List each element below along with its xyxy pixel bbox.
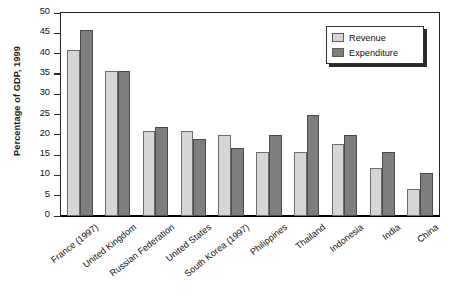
bar-group xyxy=(99,13,137,216)
y-axis-tick-label: 40 xyxy=(40,47,50,57)
legend-label-expenditure: Expenditure xyxy=(349,48,398,58)
y-axis-tick-label: 5 xyxy=(45,189,50,199)
bar-chart-figure: Percentage of GDP, 1999 0510152025303540… xyxy=(0,0,449,303)
y-axis-title: Percentage of GDP, 1999 xyxy=(12,16,22,186)
bar-revenue[interactable] xyxy=(181,131,194,216)
bar-expenditure[interactable] xyxy=(118,71,131,216)
bar-revenue[interactable] xyxy=(407,189,420,216)
legend-label-revenue: Revenue xyxy=(349,33,386,43)
y-axis-tick-mark xyxy=(54,33,61,34)
y-axis-tick-label: 35 xyxy=(40,67,50,77)
bar-group xyxy=(137,13,175,216)
bar-revenue[interactable] xyxy=(370,168,383,216)
bar-expenditure[interactable] xyxy=(231,148,244,216)
y-axis-tick-mark xyxy=(54,195,61,196)
bar-expenditure[interactable] xyxy=(155,127,168,216)
bar-expenditure[interactable] xyxy=(269,135,282,216)
bar-expenditure[interactable] xyxy=(307,115,320,216)
bar-expenditure[interactable] xyxy=(193,139,206,216)
bar-revenue[interactable] xyxy=(67,50,80,216)
y-axis-tick-mark xyxy=(54,155,61,156)
legend-swatch-revenue-icon xyxy=(332,33,344,43)
y-axis-tick-mark xyxy=(54,53,61,54)
bar-group xyxy=(212,13,250,216)
y-axis-tick-label: 20 xyxy=(40,128,50,138)
chart-legend: Revenue Expenditure xyxy=(326,26,424,64)
y-axis-tick-label: 15 xyxy=(40,148,50,158)
y-axis-tick-label: 50 xyxy=(40,6,50,16)
bar-revenue[interactable] xyxy=(105,71,118,216)
bar-expenditure[interactable] xyxy=(80,30,93,216)
bar-group xyxy=(174,13,212,216)
y-axis-tick-mark xyxy=(54,94,61,95)
y-axis-tick-label: 10 xyxy=(40,168,50,178)
y-axis-tick-mark xyxy=(54,114,61,115)
y-axis-tick-label: 45 xyxy=(40,26,50,36)
bar-revenue[interactable] xyxy=(332,144,345,216)
bar-revenue[interactable] xyxy=(143,131,156,216)
bar-group xyxy=(250,13,288,216)
y-axis-tick-mark xyxy=(54,134,61,135)
bar-revenue[interactable] xyxy=(256,152,269,216)
bar-group xyxy=(288,13,326,216)
y-axis-tick-label: 0 xyxy=(45,209,50,219)
bar-revenue[interactable] xyxy=(218,135,231,216)
y-axis-tick-mark xyxy=(54,73,61,74)
y-axis-tick-mark xyxy=(54,216,61,217)
bar-revenue[interactable] xyxy=(294,152,307,216)
bar-expenditure[interactable] xyxy=(382,152,395,216)
y-axis-tick-mark xyxy=(54,13,61,14)
bar-expenditure[interactable] xyxy=(344,135,357,216)
bar-expenditure[interactable] xyxy=(420,173,433,216)
legend-item-revenue: Revenue xyxy=(332,30,418,45)
legend-item-expenditure: Expenditure xyxy=(332,45,418,60)
bar-group xyxy=(61,13,99,216)
legend-swatch-expenditure-icon xyxy=(332,48,344,58)
y-axis-tick-label: 30 xyxy=(40,87,50,97)
y-axis-tick-label: 25 xyxy=(40,108,50,118)
y-axis-tick-mark xyxy=(54,175,61,176)
